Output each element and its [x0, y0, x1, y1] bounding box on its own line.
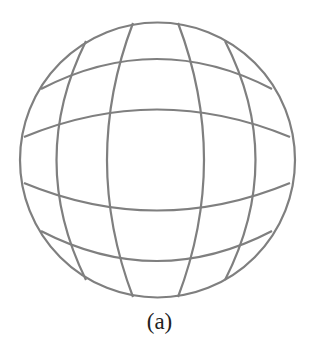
vertical-grid-lines — [57, 23, 256, 297]
barrel-distortion-diagram — [0, 0, 319, 356]
horizontal-grid-lines — [24, 59, 290, 261]
vertical-line-4 — [225, 41, 256, 280]
figure-caption: (a) — [0, 309, 319, 335]
sphere-outline — [20, 23, 295, 298]
vertical-line-1 — [57, 41, 87, 280]
